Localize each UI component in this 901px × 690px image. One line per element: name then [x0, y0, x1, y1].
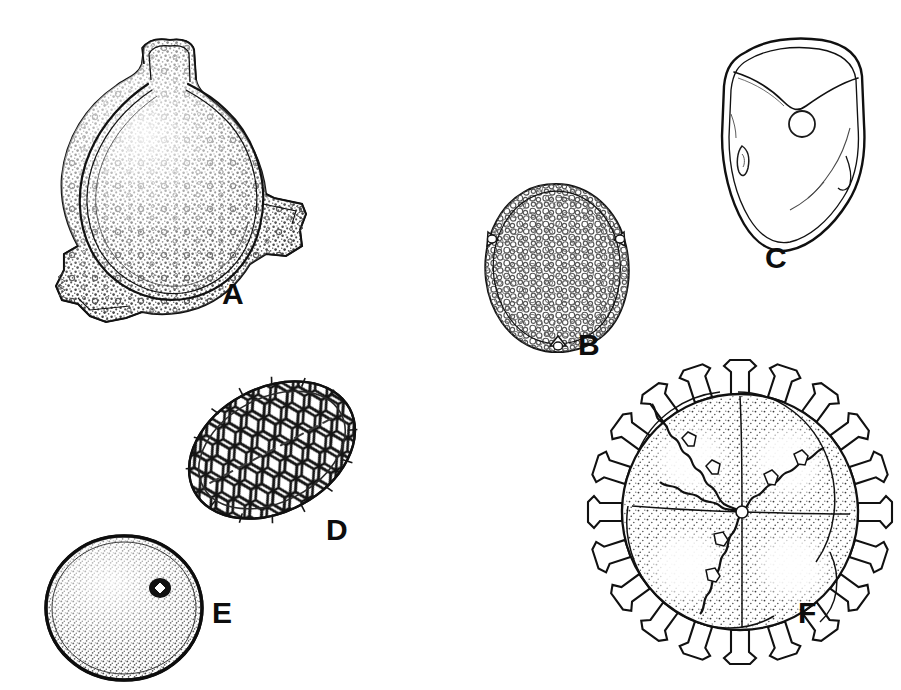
figure-f-echinate-spore-tetrad: [592, 356, 892, 668]
figure-c-smooth-triangular-spore: [698, 28, 888, 268]
figure-a-triradiate-spore: [20, 18, 320, 328]
palynology-plate: A: [0, 0, 901, 690]
figure-a-body: [20, 18, 320, 328]
figure-label-d: D: [326, 515, 348, 545]
figure-c-pore: [789, 111, 815, 137]
figure-e-body: [30, 528, 230, 690]
figure-label-a: A: [222, 279, 244, 309]
figure-b-body: [458, 176, 654, 362]
figure-e-pore: [149, 578, 171, 598]
figure-e-spheroidal-porate-spore: [30, 528, 230, 690]
figure-f-centre-node: [736, 506, 748, 518]
figure-b-ovoid-reticulate-spore: [458, 176, 654, 362]
figure-label-c: C: [765, 243, 787, 273]
figure-label-e: E: [212, 598, 232, 628]
figure-label-f: F: [798, 598, 816, 628]
figure-c-body: [722, 39, 864, 251]
figure-f-body: [592, 356, 892, 668]
